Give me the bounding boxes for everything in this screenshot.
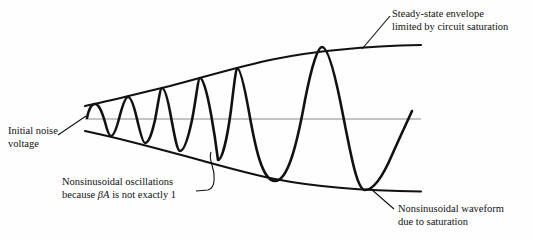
label-nonsinusoidal-wave-line2: due to saturation bbox=[398, 216, 504, 229]
label-nonsinusoidal-oscillations: Nonsinusoidal oscillations because βA is… bbox=[62, 176, 176, 201]
leader-line-nonsinusoidal-waveform bbox=[371, 189, 394, 209]
leader-line-initial-noise bbox=[58, 116, 86, 135]
label-initial-noise-line1: Initial noise bbox=[8, 125, 58, 138]
label-steady-state-line2: limited by circuit saturation bbox=[392, 21, 508, 34]
upper-envelope-curve bbox=[85, 45, 421, 106]
label-beta-a-prefix: because bbox=[62, 189, 98, 200]
label-initial-noise-voltage: Initial noise voltage bbox=[8, 125, 58, 150]
label-initial-noise-line2: voltage bbox=[8, 138, 58, 151]
label-nonsinusoidal-waveform: Nonsinusoidal waveform due to saturation bbox=[398, 203, 504, 228]
label-nonsinusoidal-osc-line1: Nonsinusoidal oscillations bbox=[62, 176, 176, 189]
label-steady-state-line1: Steady-state envelope bbox=[392, 8, 508, 21]
label-nonsinusoidal-wave-line1: Nonsinusoidal waveform bbox=[398, 203, 504, 216]
oscillator-buildup-figure: Steady-state envelope limited by circuit… bbox=[0, 0, 533, 239]
leader-line-nonsinusoidal-oscillations bbox=[196, 152, 214, 191]
label-nonsinusoidal-osc-line2: because βA is not exactly 1 bbox=[62, 189, 176, 202]
label-beta-a-suffix: is not exactly 1 bbox=[110, 189, 177, 200]
beta-a-symbol: βA bbox=[98, 189, 110, 200]
leader-line-steady-state bbox=[362, 16, 390, 49]
label-steady-state-envelope: Steady-state envelope limited by circuit… bbox=[392, 8, 508, 33]
